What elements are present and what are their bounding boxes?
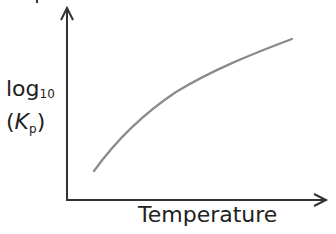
y-label-log: log (6, 76, 40, 101)
stray-mark (36, 0, 38, 3)
data-curve (94, 39, 292, 171)
y-label-base: 10 (40, 87, 55, 101)
chart: log10 (Kp) Temperature (0, 0, 336, 234)
y-label-close-paren: ) (37, 109, 46, 134)
y-axis-label: log10 (Kp) (6, 76, 62, 142)
y-label-open-paren: ( (6, 109, 15, 134)
y-label-k-sub: p (29, 122, 37, 136)
x-axis-label: Temperature (138, 202, 277, 227)
y-label-k: K (15, 109, 29, 134)
